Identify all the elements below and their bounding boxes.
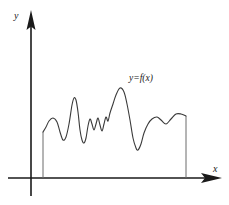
graph-canvas xyxy=(0,0,229,205)
function-curve xyxy=(43,88,186,150)
curve-equation-label: y=f(x) xyxy=(129,74,153,84)
function-graph-figure: y x y=f(x) xyxy=(0,0,229,205)
y-axis-label: y xyxy=(14,11,18,21)
x-axis-label: x xyxy=(213,164,217,174)
